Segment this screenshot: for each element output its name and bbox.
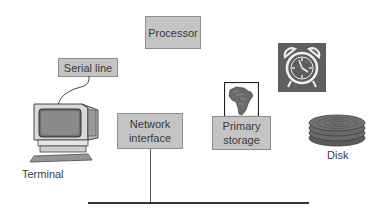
network-interface-label-line1: Network [130, 117, 170, 131]
primary-storage-label-line2: storage [223, 133, 260, 147]
alarm-clock-icon [278, 43, 326, 92]
primary-storage-label-line1: Primary [223, 119, 261, 133]
network-interface-label-line2: interface [129, 131, 171, 145]
network-bus-line [88, 202, 309, 204]
disk-platters-icon [307, 112, 367, 148]
network-connector-line [150, 149, 151, 203]
disk-label: Disk [327, 149, 348, 161]
africa-map-icon [224, 82, 259, 117]
processor-label: Processor [148, 26, 198, 40]
serial-line-label: Serial line [64, 61, 112, 75]
primary-storage-box: Primary storage [212, 116, 271, 150]
terminal-label: Terminal [22, 168, 64, 180]
network-interface-box: Network interface [117, 113, 183, 149]
serial-line-box: Serial line [58, 58, 118, 77]
computer-terminal-icon [28, 98, 108, 168]
processor-box: Processor [145, 16, 201, 49]
